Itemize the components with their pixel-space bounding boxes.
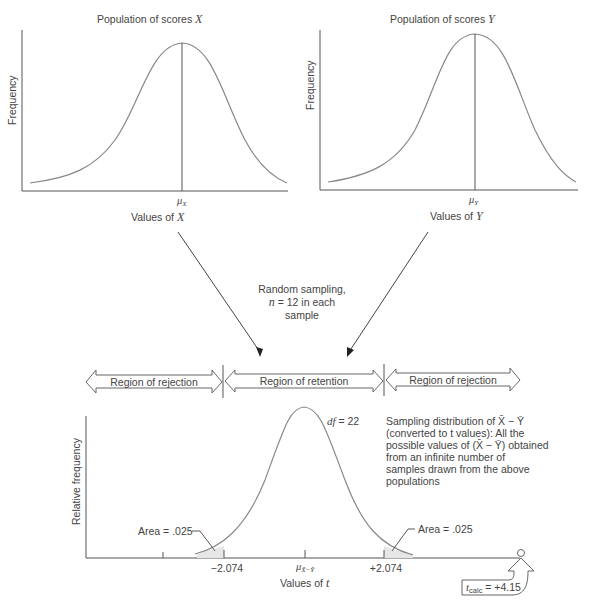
arrow-head-left — [256, 347, 263, 357]
t-distribution-plot: Relative frequency −2.074 μX̄−Ȳ +2.074 V… — [70, 407, 549, 595]
sampling-note-line3: sample — [285, 309, 319, 321]
right-tail-area — [384, 546, 413, 558]
x-axis-label: Values of X — [131, 210, 185, 224]
t-calc-marker — [518, 550, 525, 557]
sampling-note-line1: Random sampling, — [258, 283, 346, 295]
region-rejection-left-label: Region of rejection — [110, 376, 198, 388]
arrow-line-left — [178, 232, 260, 352]
svg-text:samples drawn from the above: samples drawn from the above — [386, 463, 530, 475]
t-curve — [195, 407, 413, 555]
y-axis-label: Relative frequency — [70, 437, 82, 525]
svg-text:populations: populations — [386, 475, 440, 487]
arrow-line-right — [349, 232, 428, 352]
arrow-head-right — [347, 347, 354, 357]
sampling-arrows: Random sampling, n = 12 in each sample — [178, 232, 428, 357]
area-right-label: Area = .025 — [418, 523, 473, 535]
sampling-distribution-description: Sampling distribution of X̄ − Ȳ (convert… — [386, 415, 549, 487]
svg-text:possible values of (X̄ − Ȳ) ob: possible values of (X̄ − Ȳ) obtained — [386, 439, 549, 451]
diagram-canvas: Population of scores X Frequency μX Valu… — [0, 0, 591, 608]
y-axis-label: Frequency — [6, 75, 18, 125]
normal-curve-x — [30, 43, 287, 183]
tick-label-pos: +2.074 — [370, 562, 403, 574]
svg-text:from an infinite number of: from an infinite number of — [386, 451, 505, 463]
tick-label-mean: μX̄−Ȳ — [295, 561, 315, 574]
svg-text:(converted to t values): All t: (converted to t values): All the — [386, 427, 524, 439]
region-rejection-right-label: Region of rejection — [409, 374, 497, 386]
df-label: df = 22 — [327, 415, 359, 427]
tick-label-neg: −2.074 — [211, 562, 244, 574]
svg-text:Sampling distribution of X̄ −: Sampling distribution of X̄ − Ȳ — [386, 415, 524, 427]
x-axis-label: Values of t — [280, 576, 330, 590]
population-x-title: Population of scores X — [97, 12, 203, 26]
area-left-label: Area = .025 — [138, 525, 193, 537]
population-y-plot: Population of scores Y Frequency μY Valu… — [304, 12, 578, 223]
population-x-plot: Population of scores X Frequency μX Valu… — [6, 12, 288, 224]
mean-label-x: μX — [176, 195, 187, 208]
region-retention-label: Region of retention — [260, 375, 349, 387]
normal-curve-y — [328, 34, 576, 182]
sampling-note-line2: n = 12 in each — [269, 295, 336, 309]
x-axis-label: Values of Y — [430, 209, 484, 223]
y-axis-label: Frequency — [304, 60, 316, 110]
mean-label-y: μY — [468, 194, 479, 207]
population-y-title: Population of scores Y — [390, 12, 496, 26]
